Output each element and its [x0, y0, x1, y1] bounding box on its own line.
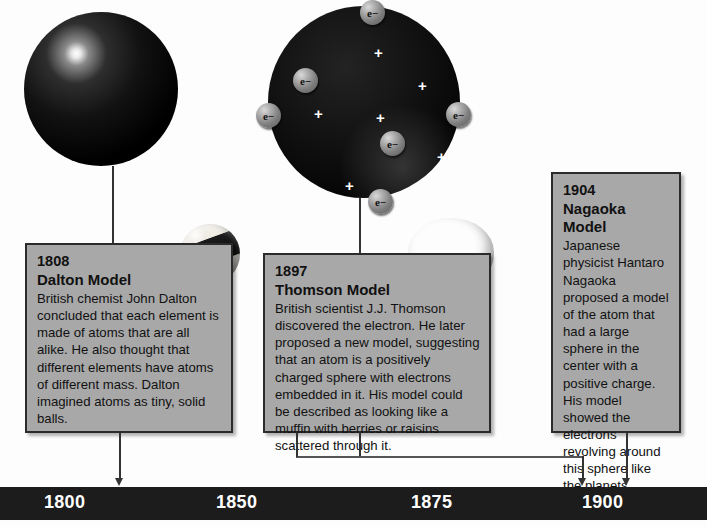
connector-thomson-sphere-to-box [359, 198, 361, 254]
thomson-title: Thomson Model [275, 281, 480, 299]
nagaoka-title: Nagaoka Model [563, 200, 670, 237]
dalton-body: British chemist John Dalton concluded th… [37, 290, 222, 427]
positive-charge-icon: + [376, 110, 385, 125]
dalton-title: Dalton Model [37, 271, 222, 289]
connector-dalton-box-to-timeline [119, 433, 121, 480]
electron-particle: e− [293, 68, 318, 93]
electron-particle: e− [446, 102, 471, 127]
arrow-marker-thomson [578, 478, 586, 486]
info-box-nagaoka[interactable]: 1904 Nagaoka Model Japanese physicist Ha… [551, 172, 681, 433]
timeline-tick-1900: 1900 [582, 492, 623, 513]
dalton-year: 1808 [37, 253, 222, 271]
connector-thomson-box-down [359, 433, 361, 457]
arrow-marker-dalton [115, 478, 123, 486]
info-box-dalton[interactable]: 1808 Dalton Model British chemist John D… [25, 243, 233, 433]
timeline-tick-1800: 1800 [44, 492, 85, 513]
connector-thomson-to-timeline [582, 456, 584, 480]
positive-charge-icon: + [418, 78, 427, 93]
connector-thomson-box-across [296, 456, 584, 458]
electron-particle: e− [360, 0, 385, 25]
positive-charge-icon: + [374, 45, 383, 60]
thomson-atom-illustration: e−e−e−e−e−e−++++++ [268, 6, 460, 198]
connector-nagaoka-box-to-timeline [626, 433, 628, 480]
electron-particle: e− [380, 131, 405, 156]
thomson-body: British scientist J.J. Thomson discovere… [275, 300, 480, 454]
timeline-tick-1875: 1875 [411, 492, 452, 513]
connector-thomson-box-stub [296, 433, 298, 457]
arrow-marker-nagaoka [622, 478, 630, 486]
timeline-bar[interactable]: 1800 1850 1875 1900 [0, 487, 707, 520]
positive-charge-icon: + [345, 178, 354, 193]
dalton-solid-sphere-illustration [24, 12, 178, 166]
positive-charge-icon: + [314, 106, 323, 121]
connector-dalton-sphere-to-box [112, 166, 114, 244]
timeline-tick-1850: 1850 [216, 492, 257, 513]
thomson-year: 1897 [275, 263, 480, 281]
nagaoka-year: 1904 [563, 182, 670, 200]
positive-charge-icon: + [437, 149, 446, 164]
electron-particle: e− [368, 189, 393, 214]
info-box-thomson[interactable]: 1897 Thomson Model British scientist J.J… [263, 253, 491, 433]
electron-particle: e− [256, 103, 281, 128]
nagaoka-body: Japanese physicist Hantaro Nagaoka propo… [563, 237, 670, 512]
